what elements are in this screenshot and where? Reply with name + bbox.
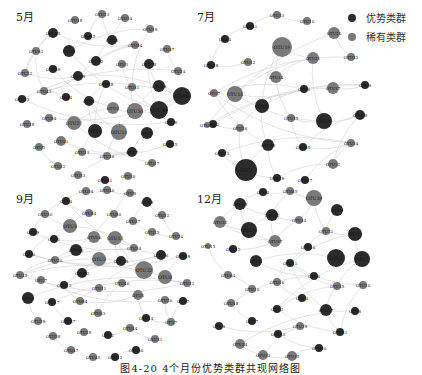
svg-text:OTU28: OTU28 [233,202,248,207]
dominant-node: OTU3 [141,127,153,139]
dominant-node: OTU25 [163,140,178,148]
svg-text:OTU27: OTU27 [126,219,141,224]
panel-title-december: 12月 [197,190,222,206]
svg-text:OTU7: OTU7 [126,150,138,155]
svg-text:OTU25: OTU25 [163,142,178,147]
svg-text:OTU34: OTU34 [292,218,307,223]
svg-text:OTU3: OTU3 [116,62,128,67]
svg-text:OTU4: OTU4 [257,190,269,195]
svg-text:OTU6: OTU6 [132,293,144,298]
svg-text:OTU31: OTU31 [241,228,258,233]
dominant-node: OTU61 [333,328,347,336]
svg-text:OTU23: OTU23 [95,12,110,17]
svg-text:OTU1: OTU1 [329,256,343,261]
dominant-node: OTU9 [331,204,343,216]
svg-text:OTU32: OTU32 [326,162,341,167]
panel-title-september: 9月 [16,190,34,206]
rare-node: OTU15 [13,271,28,279]
svg-text:OTU42: OTU42 [75,271,90,276]
svg-text:OTU7: OTU7 [246,319,258,324]
dominant-node: OTU66 [129,346,144,354]
dominant-node: OTU7 [246,317,258,325]
rare-dot-icon [348,33,356,41]
svg-text:OTU5: OTU5 [33,145,45,150]
rare-node: OTU27 [66,116,83,130]
svg-text:OTU93: OTU93 [15,97,30,102]
rare-node: OTU21 [306,52,320,64]
network-edge [312,58,324,121]
rare-node: OTU43 [37,87,52,95]
rare-node: OTU21 [54,136,68,146]
svg-text:OTU5: OTU5 [88,129,102,134]
rare-node: OTU27 [126,217,141,225]
svg-text:OTU66: OTU66 [129,348,144,353]
svg-text:OTU20: OTU20 [169,234,184,239]
svg-text:OTU28: OTU28 [204,63,219,68]
network-edge [211,39,225,65]
network-edge [222,138,351,153]
rare-node: OTU37 [268,235,283,247]
rare-node: OTU25 [330,282,345,290]
dominant-node: OTU4 [60,93,72,101]
svg-text:OTU29: OTU29 [293,324,308,329]
rare-node: OTU39 [306,190,323,206]
svg-text:OTU39: OTU39 [306,196,323,201]
svg-text:OTU16: OTU16 [127,109,144,114]
rare-node: OTU8 [158,270,172,284]
dominant-node: OTU1 [316,113,332,129]
svg-text:OTU3: OTU3 [141,131,153,136]
svg-text:OTU13: OTU13 [107,236,124,241]
svg-text:OTU20: OTU20 [327,31,342,36]
svg-text:OTU84: OTU84 [200,123,215,128]
dominant-node: OTU2 [22,292,34,304]
dominant-node: OTU1 [83,96,95,106]
dominant-node: OTU9 [359,81,371,89]
rare-node: OTU32 [135,261,153,279]
svg-text:OTU30: OTU30 [265,213,280,218]
rare-node: OTU32 [51,162,66,170]
dominant-node: OTU57 [61,317,76,325]
dominant-node: OTU6 [298,85,310,93]
rare-node: OTU3 [92,252,106,266]
rare-node: OTU64 [221,271,236,279]
svg-text:OTU29: OTU29 [152,84,167,89]
svg-text:OTU16: OTU16 [301,245,316,250]
rare-node: OTU26 [158,296,173,304]
panel-title-may: 5月 [16,8,34,24]
dominant-node: OTU5 [250,255,262,267]
network-edge [290,234,355,263]
svg-text:OTU61: OTU61 [333,330,347,335]
dominant-node: OTU1 [235,159,257,181]
rare-node: OTU16 [127,103,144,119]
svg-text:OTU7: OTU7 [208,91,220,96]
svg-text:OTU15: OTU15 [46,31,61,36]
rare-node: OTU23 [256,350,271,360]
rare-node: OTU46 [115,279,130,287]
svg-text:OTU1: OTU1 [317,119,331,124]
dominant-node: OTU60 [312,344,327,352]
dominant-node: OTU38 [353,110,368,120]
dominant-node: OTU9 [27,228,39,236]
rare-node: OTU20 [48,256,63,264]
rare-node: OTU32 [213,216,228,228]
rare-node: OTU35 [284,114,299,122]
svg-text:OTU32: OTU32 [136,268,153,273]
svg-text:OTU9: OTU9 [331,208,343,213]
svg-text:OTU26: OTU26 [158,298,173,303]
legend: 优势类群 稀有类群 [348,8,406,46]
svg-text:OTU8: OTU8 [158,275,172,280]
svg-text:OTU58: OTU58 [261,143,276,148]
svg-text:OTU29: OTU29 [31,319,46,324]
svg-text:OTU18: OTU18 [224,301,239,306]
rare-node: OTU10 [245,285,260,293]
rare-node: OTU84 [73,297,88,305]
rare-node: OTU84 [200,122,215,128]
svg-text:OTU1: OTU1 [239,168,253,173]
rare-node: OTU22 [344,53,359,61]
dominant-node: OTU41 [243,22,257,30]
svg-text:OTU7: OTU7 [165,320,177,325]
rare-node: OTU26 [270,278,285,286]
svg-text:OTU60: OTU60 [312,346,327,351]
rare-node: OTU34 [79,187,94,195]
rare-node: OTU26 [233,124,248,132]
